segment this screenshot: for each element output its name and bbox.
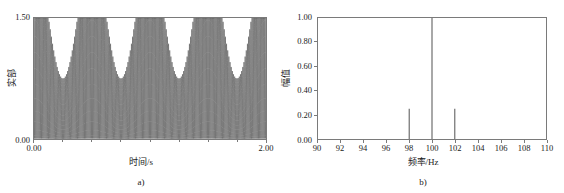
panel-a-xtickmark: [150, 140, 151, 142]
panel-b-xtick-98: 98: [398, 144, 420, 153]
panel-b-xtick-90: 90: [306, 144, 328, 153]
panel-b-ytick-1: 1.00: [284, 13, 312, 22]
panel-a-plot-area: [33, 17, 267, 140]
panel-b-xtickmark: [340, 140, 341, 143]
panel-a-ytick-max: 1.50: [0, 13, 30, 22]
panel-b-xtickmark: [478, 140, 479, 143]
panel-b-plot-area: [317, 17, 547, 140]
panel-b-caption: b): [282, 178, 564, 187]
panel-a-xtickmark: [266, 140, 267, 143]
panel-a-ylabel: 实部: [8, 63, 17, 93]
figure-container: 1.50 0.00 0.00 2.00 实部 时间/s a) 1.00 0.: [0, 0, 564, 193]
panel-b-xtickmark: [317, 140, 318, 143]
panel-b-ytick-080: 0.80: [284, 37, 312, 46]
panel-b-xtick-96: 96: [375, 144, 397, 153]
panel-a-xtickmark: [33, 140, 34, 143]
panel-b-xtick-106: 106: [490, 144, 512, 153]
spectrum-lines: [318, 18, 546, 139]
panel-a-xlabel: 时间/s: [0, 158, 282, 167]
panel-b-xtickmark: [455, 140, 456, 143]
panel-a-xtick-end: 2.00: [250, 144, 282, 153]
panel-b-xtick-110: 110: [536, 144, 558, 153]
panel-b-xtick-94: 94: [352, 144, 374, 153]
panel-b-xtickmark: [409, 140, 410, 143]
panel-b-xlabel: 频率/Hz: [282, 158, 564, 167]
panel-b-xtickmark: [501, 140, 502, 143]
panel-a-xtickmark: [62, 140, 63, 142]
panel-b-xtickmark: [363, 140, 364, 143]
panel-b-xtick-100: 100: [421, 144, 443, 153]
panel-a-xtickmark: [91, 140, 92, 142]
panel-a-xtick-start: 0.00: [18, 144, 50, 153]
panel-a-time-domain: 1.50 0.00 0.00 2.00 实部 时间/s a): [0, 0, 282, 193]
panel-b-spectrum: 1.00 0.80 0.60 0.40 0.20 0.00 90 92 94 9…: [282, 0, 564, 193]
panel-a-xtickmark: [179, 140, 180, 142]
panel-b-xtick-92: 92: [329, 144, 351, 153]
panel-a-xtickmark: [237, 140, 238, 142]
panel-b-xtickmark: [547, 140, 548, 143]
panel-b-xtickmark: [524, 140, 525, 143]
panel-a-xtickmark: [208, 140, 209, 142]
panel-b-xtick-104: 104: [467, 144, 489, 153]
panel-b-xtick-108: 108: [513, 144, 535, 153]
panel-b-ylabel: 幅值: [282, 63, 291, 93]
panel-b-ytick-020: 0.20: [284, 111, 312, 120]
panel-a-caption: a): [0, 178, 282, 187]
panel-b-xtickmark: [432, 140, 433, 143]
panel-b-xtick-102: 102: [444, 144, 466, 153]
panel-a-xtickmark: [120, 140, 121, 142]
panel-b-xtickmark: [386, 140, 387, 143]
time-domain-waveform: [34, 18, 266, 139]
